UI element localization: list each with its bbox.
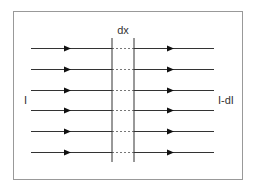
arrow-right-icon [64,129,71,135]
arrow-right-icon [64,67,71,73]
arrow-right-icon [64,88,71,94]
arrow-right-icon [167,129,174,135]
outgoing-current-label: I-dI [218,94,234,106]
current-slab-diagram: dx I I-dI [0,0,253,189]
arrow-right-icon [167,88,174,94]
arrow-right-icon [64,108,71,114]
frame-border [14,12,243,180]
dx-label: dx [117,24,129,36]
arrow-right-icon [167,150,174,156]
flow-lines [31,46,214,156]
incoming-current-label: I [24,94,27,106]
arrow-right-icon [167,67,174,73]
arrow-right-icon [167,46,174,52]
arrow-right-icon [64,150,71,156]
arrow-right-icon [167,108,174,114]
arrow-right-icon [64,46,71,52]
